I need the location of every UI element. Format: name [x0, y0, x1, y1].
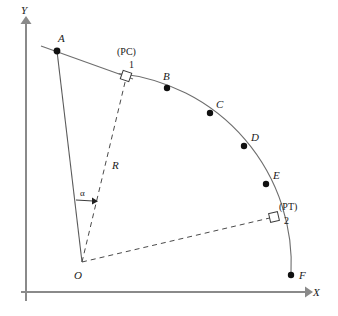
radius-label: R	[111, 159, 119, 171]
point-label-o: O	[74, 269, 82, 281]
pt-tag-label: (PT)	[279, 201, 297, 213]
pt-number-label: 2	[284, 215, 289, 226]
pc-tag-label: (PC)	[117, 46, 136, 58]
right-angle-square-pt-icon	[269, 212, 280, 223]
point-dot-a	[54, 48, 61, 55]
angle-alpha-label: α	[80, 188, 85, 198]
point-label-e: E	[272, 169, 280, 181]
radius-to-pt-group	[82, 217, 274, 262]
pc-label-group: (PC) 1	[117, 46, 136, 70]
point-label-d: D	[250, 131, 259, 143]
point-label-a: A	[57, 32, 65, 44]
pc-number-label: 1	[129, 59, 134, 70]
pt-label-group: (PT) 2	[279, 201, 297, 226]
point-dot-f	[288, 272, 294, 278]
y-axis-label: Y	[21, 4, 29, 16]
radius-to-pc-group	[82, 74, 127, 262]
point-label-b: B	[163, 70, 170, 82]
point-dot-b	[164, 85, 170, 91]
x-axis-arrowhead	[305, 287, 313, 298]
y-axis-arrowhead	[21, 16, 32, 24]
pt-right-angle-group	[269, 212, 280, 223]
point-label-c: C	[216, 98, 224, 110]
right-angle-square-pc-icon	[120, 70, 131, 81]
curve-diagram-svg: X Y	[0, 0, 338, 316]
line-a-to-o-group	[57, 51, 82, 262]
radius-line-o-to-pt	[82, 217, 274, 262]
radius-line-o-to-pc	[82, 74, 127, 262]
point-labels-group: A B C D E F O	[57, 32, 306, 281]
axes-group: X Y	[21, 4, 322, 301]
station-dots-group	[54, 48, 295, 279]
point-dot-e	[263, 181, 269, 187]
angle-alpha-group	[76, 198, 98, 205]
line-a-to-o	[57, 51, 82, 262]
angle-alpha-arrow-line	[76, 200, 93, 201]
pc-right-angle-group	[120, 70, 131, 81]
circular-arc-group	[119, 74, 292, 276]
curve-diagram-canvas: X Y	[0, 0, 338, 316]
circular-curve-path	[119, 74, 292, 276]
annotation-labels-group: R α	[80, 159, 119, 198]
x-axis-label: X	[312, 286, 321, 298]
point-label-f: F	[298, 269, 306, 281]
point-dot-c	[207, 110, 213, 116]
point-dot-d	[241, 143, 247, 149]
